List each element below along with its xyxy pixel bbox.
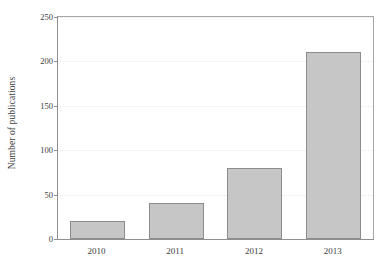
y-tick-label: 0 (49, 234, 53, 244)
x-tick-label-2012: 2012 (215, 246, 294, 256)
y-axis-title-text: Number of publications (7, 77, 17, 169)
y-tick-label: 250 (40, 12, 53, 22)
y-tick-label: 150 (40, 101, 53, 111)
y-tick-label: 200 (40, 56, 53, 66)
bar-2013 (306, 52, 361, 239)
y-tick-mark (54, 239, 58, 240)
y-tick-label: 100 (40, 145, 53, 155)
x-tick-label-2011: 2011 (136, 246, 215, 256)
bar-2011 (149, 203, 204, 239)
y-tick-label: 50 (45, 190, 54, 200)
x-tick-label-2010: 2010 (57, 246, 136, 256)
plot-area: 050100150200250 (57, 16, 374, 240)
bar-chart-figure: Number of publications 050100150200250 2… (0, 0, 384, 276)
bars-group (58, 17, 373, 239)
bar-2012 (227, 168, 282, 239)
y-axis-title: Number of publications (0, 0, 24, 246)
x-tick-label-2013: 2013 (293, 246, 372, 256)
bar-2010 (70, 221, 125, 239)
